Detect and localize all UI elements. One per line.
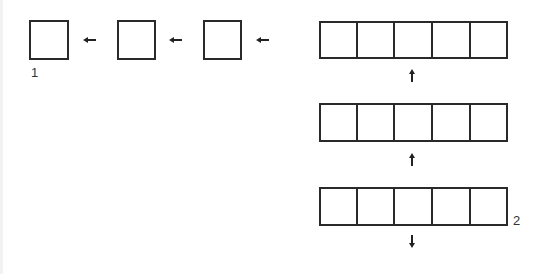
cell xyxy=(393,187,433,226)
cell xyxy=(469,187,508,226)
cell xyxy=(319,103,358,142)
cell-row-3 xyxy=(319,187,508,226)
cell xyxy=(431,103,471,142)
cell xyxy=(356,103,395,142)
arrow-up-icon xyxy=(408,69,416,82)
cell-row-1 xyxy=(319,21,508,59)
cell xyxy=(469,103,508,142)
label-end: 2 xyxy=(513,214,520,227)
arrow-left-icon xyxy=(83,36,97,44)
cell xyxy=(356,21,395,59)
arrow-up-icon xyxy=(408,153,416,166)
arrow-down-icon xyxy=(408,235,416,248)
cell xyxy=(319,21,358,59)
single-box-1 xyxy=(29,20,69,60)
single-box-2 xyxy=(117,20,156,60)
cell-row-2 xyxy=(319,103,508,142)
cell xyxy=(319,187,358,226)
cell xyxy=(431,21,471,59)
arrow-left-icon xyxy=(256,36,270,44)
label-start: 1 xyxy=(31,66,38,79)
cell xyxy=(393,21,433,59)
cell xyxy=(356,187,395,226)
cell xyxy=(431,187,471,226)
arrow-left-icon xyxy=(169,36,183,44)
page-edge xyxy=(0,0,3,274)
single-box-3 xyxy=(203,20,242,60)
cell xyxy=(393,103,433,142)
cell xyxy=(469,21,508,59)
